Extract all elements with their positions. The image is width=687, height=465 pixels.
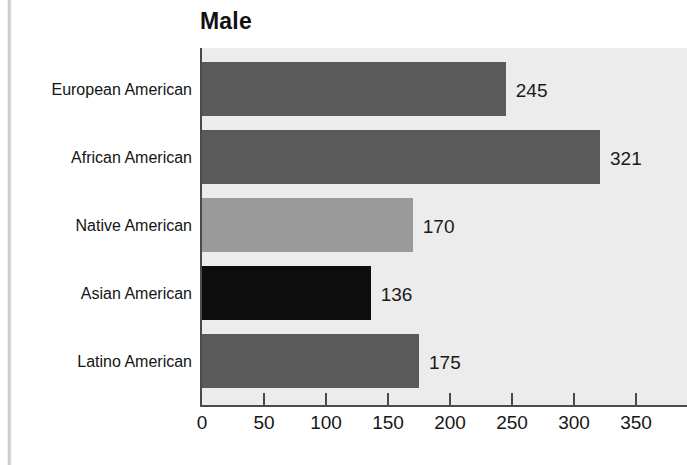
category-label-3: Asian American bbox=[81, 285, 192, 303]
bar-european-american bbox=[202, 62, 506, 116]
x-tick-label-150: 150 bbox=[372, 412, 404, 434]
category-label-1: African American bbox=[71, 149, 192, 167]
x-tick-mark-150 bbox=[387, 393, 389, 406]
category-label-2: Native American bbox=[76, 217, 193, 235]
category-label-0: European American bbox=[51, 81, 192, 99]
x-tick-mark-100 bbox=[325, 393, 327, 406]
bar-value-3: 136 bbox=[381, 284, 413, 306]
category-label-4: Latino American bbox=[77, 353, 192, 371]
chart-figure: Male European American African American … bbox=[0, 0, 687, 465]
bar-value-4: 175 bbox=[429, 352, 461, 374]
x-tick-mark-350 bbox=[635, 393, 637, 406]
bar-native-american bbox=[202, 198, 413, 252]
x-tick-mark-250 bbox=[511, 393, 513, 406]
x-axis-line bbox=[200, 405, 687, 407]
bar-latino-american bbox=[202, 334, 419, 388]
x-tick-label-100: 100 bbox=[310, 412, 342, 434]
chart-title: Male bbox=[200, 8, 252, 35]
x-tick-label-0: 0 bbox=[197, 412, 208, 434]
scan-gutter-artifact bbox=[7, 0, 12, 465]
bar-value-2: 170 bbox=[423, 216, 455, 238]
x-tick-label-250: 250 bbox=[496, 412, 528, 434]
x-tick-label-200: 200 bbox=[434, 412, 466, 434]
x-tick-mark-300 bbox=[573, 393, 575, 406]
x-tick-mark-50 bbox=[263, 393, 265, 406]
bar-african-american bbox=[202, 130, 600, 184]
x-tick-label-300: 300 bbox=[558, 412, 590, 434]
x-tick-label-350: 350 bbox=[620, 412, 652, 434]
bar-asian-american bbox=[202, 266, 371, 320]
bar-value-0: 245 bbox=[516, 80, 548, 102]
x-tick-label-50: 50 bbox=[253, 412, 274, 434]
bar-value-1: 321 bbox=[610, 148, 642, 170]
x-tick-mark-200 bbox=[449, 393, 451, 406]
